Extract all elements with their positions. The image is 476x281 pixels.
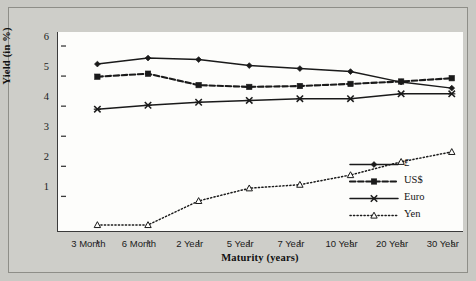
legend-item-gbp: £: [348, 156, 453, 173]
x-tick-label-10-year: 10 Year: [314, 238, 370, 249]
y-tick-label-6: 6: [27, 31, 49, 42]
y-tick-label-1: 1: [27, 181, 49, 192]
legend-label: Euro: [404, 191, 424, 202]
legend-label: Yen: [404, 208, 420, 219]
chart-legend: £US$EuroYen: [348, 156, 453, 224]
y-tick-label-3: 3: [27, 121, 49, 132]
y-tick-label-5: 5: [27, 61, 49, 72]
legend-item-euro: Euro: [348, 190, 453, 207]
x-tick-label-7-year: 7 Year: [263, 238, 319, 249]
x-tick-label-5-year: 5 Year: [212, 238, 268, 249]
legend-item-yen: Yen: [348, 207, 453, 224]
chart-frame: Yield (in %) Maturity (years) 654321 3 M…: [8, 7, 468, 273]
legend-line-sample: [348, 156, 400, 173]
x-tick-label-2-year: 2 Year: [162, 238, 218, 249]
legend-line-sample: [348, 190, 400, 207]
x-tick-label-3-month: 3 Month: [60, 238, 116, 249]
x-axis-label: Maturity (years): [57, 252, 463, 263]
legend-label: £: [404, 157, 409, 168]
legend-item-us: US$: [348, 173, 453, 190]
y-tick-label-4: 4: [27, 91, 49, 102]
legend-line-sample: [348, 207, 400, 224]
x-tick-label-6-month: 6 Month: [111, 238, 167, 249]
y-axis-label: Yield (in %): [1, 0, 12, 116]
legend-label: US$: [404, 174, 423, 185]
x-tick-label-30-year: 30 Year: [415, 238, 471, 249]
y-tick-label-2: 2: [27, 151, 49, 162]
chart-figure: Yield (in %) Maturity (years) 654321 3 M…: [0, 0, 476, 281]
x-tick-label-20-year: 20 Year: [364, 238, 420, 249]
legend-line-sample: [348, 173, 400, 190]
